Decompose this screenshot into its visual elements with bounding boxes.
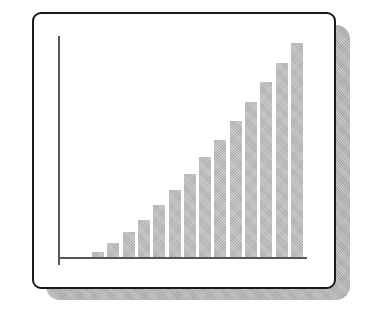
bar-10 [230,121,242,257]
y-axis [58,36,60,265]
bar-14 [291,43,303,257]
bar-8 [199,157,211,257]
bar-2 [107,243,119,257]
bar-9 [214,140,226,257]
bar-13 [276,63,288,257]
bar-4 [138,220,150,257]
bar-11 [245,102,257,257]
bar-7 [184,174,196,257]
bar-3 [123,232,135,257]
bar-6 [169,190,181,257]
bar-5 [153,205,165,257]
x-axis [58,257,307,259]
bar-12 [260,82,272,257]
